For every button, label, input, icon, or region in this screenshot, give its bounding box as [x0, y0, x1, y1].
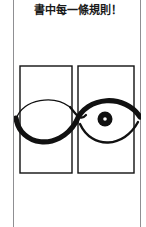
left-lens-upper-arc [16, 100, 70, 119]
pupil-highlight-icon [103, 117, 107, 121]
left-lens-lower-arc [16, 118, 76, 142]
page-caption: 書中每一條規則！ [14, 1, 141, 21]
eye-illustration-svg [14, 62, 141, 178]
book-page-scan: 書中每一條規則！ [0, 0, 146, 227]
eye-illustration [14, 62, 141, 178]
left-panel-frame [20, 66, 72, 173]
